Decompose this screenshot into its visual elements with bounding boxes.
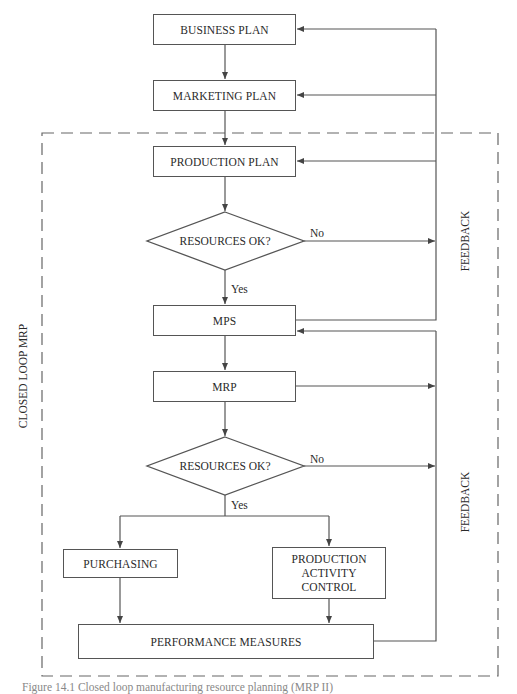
node-marketing-plan-label: MARKETING PLAN bbox=[173, 89, 276, 103]
closed-loop-boundary bbox=[42, 133, 498, 676]
node-production-plan-label: PRODUCTION PLAN bbox=[170, 155, 279, 169]
node-marketing-plan[interactable]: MARKETING PLAN bbox=[153, 80, 296, 111]
node-performance-measures[interactable]: PERFORMANCE MEASURES bbox=[78, 624, 374, 659]
pac-label-line-3: CONTROL bbox=[301, 580, 356, 594]
feedback-loop-upper bbox=[296, 29, 436, 320]
node-production-plan[interactable]: PRODUCTION PLAN bbox=[153, 146, 296, 177]
node-performance-measures-label: PERFORMANCE MEASURES bbox=[150, 635, 301, 649]
decision-1-yes-label: Yes bbox=[231, 283, 248, 295]
node-purchasing[interactable]: PURCHASING bbox=[63, 549, 178, 578]
pac-label-line-1: PRODUCTION bbox=[291, 552, 366, 566]
node-business-plan-label: BUSINESS PLAN bbox=[180, 23, 269, 37]
feedback-label-upper: FEEDBACK bbox=[459, 206, 471, 276]
closed-loop-mrp-label: CLOSED LOOP MRP bbox=[17, 321, 29, 431]
decision-2-no-label: No bbox=[310, 453, 324, 465]
node-purchasing-label: PURCHASING bbox=[83, 557, 158, 571]
node-mps-label: MPS bbox=[213, 314, 236, 328]
decision-2-yes-label: Yes bbox=[231, 499, 248, 511]
decision-1-no-label: No bbox=[310, 227, 324, 239]
decision-1-label: RESOURCES OK? bbox=[179, 235, 270, 247]
node-production-activity-control[interactable]: PRODUCTION ACTIVITY CONTROL bbox=[272, 547, 386, 599]
decision-2-label: RESOURCES OK? bbox=[179, 460, 270, 472]
node-mrp[interactable]: MRP bbox=[153, 371, 296, 402]
figure-caption: Figure 14.1 Closed loop manufacturing re… bbox=[22, 681, 333, 693]
node-business-plan[interactable]: BUSINESS PLAN bbox=[153, 14, 296, 45]
node-mrp-label: MRP bbox=[212, 380, 237, 394]
node-mps[interactable]: MPS bbox=[153, 305, 296, 336]
pac-label-line-2: ACTIVITY bbox=[301, 566, 356, 580]
feedback-label-lower: FEEDBACK bbox=[459, 467, 471, 537]
